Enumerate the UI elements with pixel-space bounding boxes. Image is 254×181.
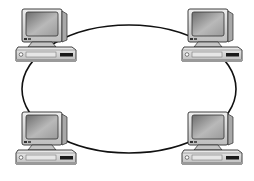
computer-top-left-icon — [16, 9, 76, 62]
computer-bottom-right-icon — [182, 112, 242, 165]
network-diagram-canvas — [0, 0, 254, 181]
ring-topology-diagram — [0, 0, 254, 181]
computer-top-right-icon — [182, 9, 242, 62]
computer-bottom-left-icon — [16, 112, 76, 165]
